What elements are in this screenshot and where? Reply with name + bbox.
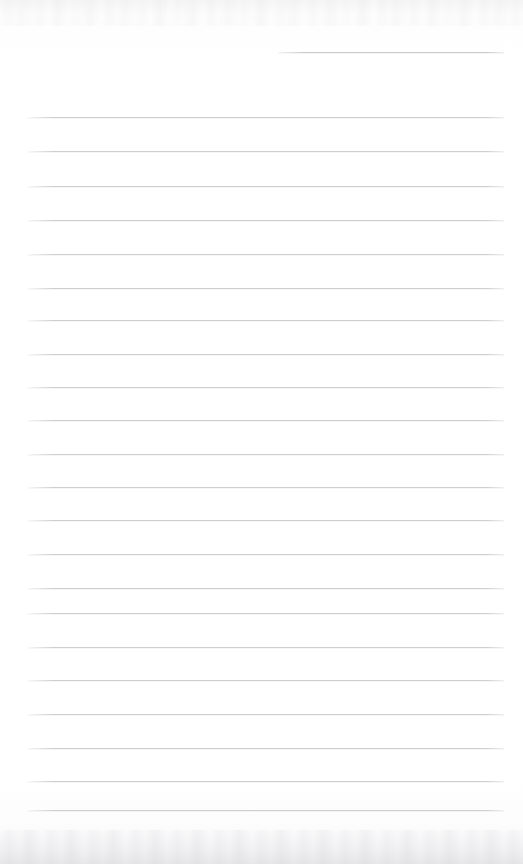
rule-16 (28, 613, 504, 614)
rule-1 (28, 117, 504, 118)
rule-5 (28, 254, 504, 255)
rule-4 (28, 220, 504, 221)
scanned-page (0, 0, 523, 864)
rule-9 (28, 387, 504, 388)
rule-11 (28, 454, 504, 455)
partial-top-rule (278, 52, 504, 53)
rule-15 (28, 588, 504, 589)
rule-7 (28, 320, 504, 321)
rule-20 (28, 748, 504, 749)
rule-13 (28, 520, 504, 521)
rule-17 (28, 647, 504, 648)
rule-3 (28, 186, 504, 187)
rule-8 (28, 354, 504, 355)
rule-19 (28, 714, 504, 715)
rule-22 (28, 810, 504, 811)
rule-12 (28, 487, 504, 488)
rule-21 (28, 781, 504, 782)
rule-18 (28, 680, 504, 681)
rule-2 (28, 151, 504, 152)
rule-6 (28, 288, 504, 289)
paper-surface (0, 0, 523, 864)
rule-10 (28, 420, 504, 421)
rule-14 (28, 554, 504, 555)
